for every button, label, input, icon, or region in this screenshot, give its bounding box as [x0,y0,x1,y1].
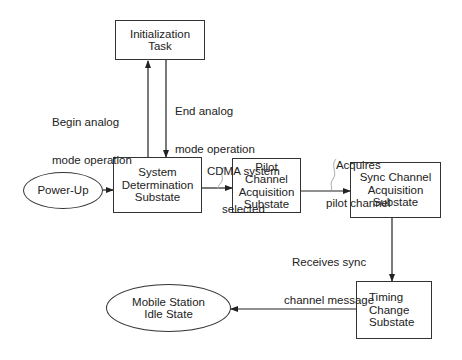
node-label: Power-Up [37,184,88,197]
node-label: Task [130,40,190,53]
node-label: Timing [369,291,414,304]
edge-label-text: End analog [175,105,255,118]
edge-label-text: mode operation [52,154,132,167]
node-label: Initialization [130,28,190,41]
edge-label-text: Begin analog [52,116,132,129]
edge-label-text: pilot channel [326,197,391,210]
edge-label-cdma-selected: CDMA system selected [207,140,280,228]
node-label: Substate [369,316,414,329]
edge-label-receives-sync: Receives sync channel message [284,231,374,319]
edge-label-text: Acquires [326,159,391,172]
node-label: System [122,166,194,179]
node-label: Determination [122,179,194,192]
edge-label-text: channel message [284,294,374,307]
edge-label-begin-analog: Begin analog mode operation [52,91,132,179]
node-label: Mobile Station [132,296,205,309]
node-mobile-station-idle: Mobile Station Idle State [106,284,231,332]
node-label: Idle State [132,308,205,321]
edge-label-text: selected [207,203,280,216]
edge-label-acquires-pilot: Acquires pilot channel [326,134,391,222]
node-initialization-task: Initialization Task [115,20,205,60]
edge-label-text: Receives sync [284,256,374,269]
node-label: Change [369,304,414,317]
node-label: Substate [122,191,194,204]
edge-label-text: CDMA system [207,165,280,178]
